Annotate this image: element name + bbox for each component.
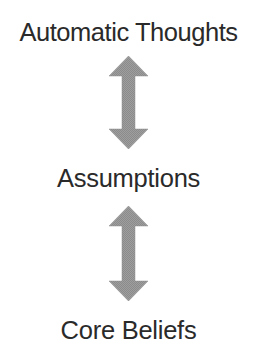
cognitive-model-diagram: Automatic Thoughts Assumptions [0,0,257,364]
level-label-automatic-thoughts: Automatic Thoughts [0,20,257,46]
level-label-core-beliefs: Core Beliefs [0,318,257,344]
level-label-assumptions: Assumptions [0,166,257,192]
double-headed-vertical-arrow-icon [108,56,149,149]
double-headed-vertical-arrow-icon [108,206,149,301]
